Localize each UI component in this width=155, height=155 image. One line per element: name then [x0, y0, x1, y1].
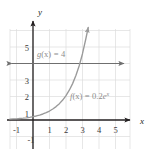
- g-label-eq: =: [54, 49, 59, 59]
- f-label-exponent: x: [106, 91, 110, 97]
- x-tick-label--1: -1: [13, 125, 20, 135]
- x-tick-label-4: 4: [97, 125, 102, 135]
- y-tick-label-5: 5: [25, 43, 29, 53]
- f-function-curve: [10, 28, 88, 120]
- x-tick-label-1: 1: [47, 125, 51, 135]
- x-tick-labels: -1 1 2 3 4 5: [13, 125, 118, 135]
- y-tick-label-2: 2: [25, 92, 29, 102]
- x-axis-label: x: [139, 116, 144, 126]
- x-tick-label-2: 2: [64, 125, 68, 135]
- y-axis-label: y: [37, 7, 42, 17]
- f-label-arg: (x): [72, 91, 82, 101]
- g-label-value: 4: [61, 49, 66, 59]
- f-label-eq: =: [85, 91, 90, 101]
- g-label-arg: (x): [41, 49, 51, 59]
- f-function-label: f(x)=0.2ex: [70, 91, 110, 101]
- g-function-label: g(x)=4: [37, 49, 66, 59]
- graph-canvas: -1 1 2 3 4 5 5 3 2 1 -1 y x g(x)=4 f(x)=…: [0, 0, 155, 155]
- x-tick-label-5: 5: [113, 125, 117, 135]
- y-tick-label-1: 1: [25, 109, 29, 119]
- f-label-coefficient: 0.2: [92, 91, 103, 101]
- x-tick-label-3: 3: [80, 125, 84, 135]
- y-tick-label--1: -1: [27, 135, 34, 145]
- exponential-graph-figure: -1 1 2 3 4 5 5 3 2 1 -1 y x g(x)=4 f(x)=…: [0, 0, 155, 155]
- y-tick-label-3: 3: [25, 76, 29, 86]
